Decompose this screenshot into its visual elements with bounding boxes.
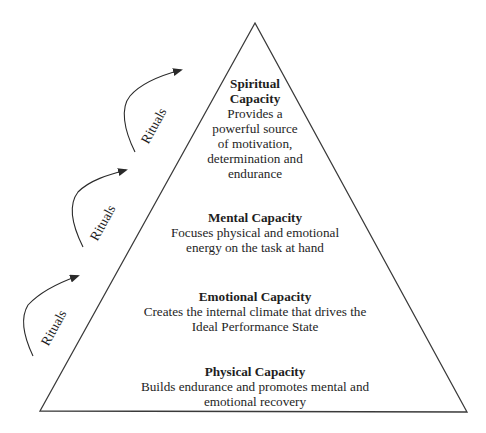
level-emotional: Emotional Capacity Creates the internal … — [120, 289, 390, 334]
level-emotional-desc-2: Ideal Performance State — [120, 319, 390, 334]
level-mental-title: Mental Capacity — [155, 210, 355, 225]
level-spiritual-desc-2: powerful source — [195, 121, 315, 136]
level-physical-title: Physical Capacity — [120, 364, 390, 379]
level-spiritual-title-2: Capacity — [195, 91, 315, 106]
level-physical-desc-2: emotional recovery — [120, 394, 390, 409]
level-mental-desc-1: Focuses physical and emotional — [155, 225, 355, 240]
level-mental: Mental Capacity Focuses physical and emo… — [155, 210, 355, 255]
level-mental-desc-2: energy on the task at hand — [155, 240, 355, 255]
level-spiritual: Spiritual Capacity Provides a powerful s… — [195, 76, 315, 181]
level-emotional-desc-1: Creates the internal climate that drives… — [120, 304, 390, 319]
level-emotional-title: Emotional Capacity — [120, 289, 390, 304]
level-spiritual-desc-1: Provides a — [195, 106, 315, 121]
level-physical: Physical Capacity Builds endurance and p… — [120, 364, 390, 409]
level-spiritual-title-1: Spiritual — [195, 76, 315, 91]
level-spiritual-desc-3: of motivation, — [195, 136, 315, 151]
level-spiritual-desc-5: endurance — [195, 166, 315, 181]
level-spiritual-desc-4: determination and — [195, 151, 315, 166]
level-physical-desc-1: Builds endurance and promotes mental and — [120, 379, 390, 394]
